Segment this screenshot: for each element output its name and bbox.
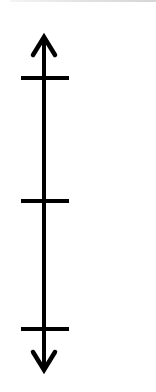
vertical-number-line: [0, 0, 156, 392]
